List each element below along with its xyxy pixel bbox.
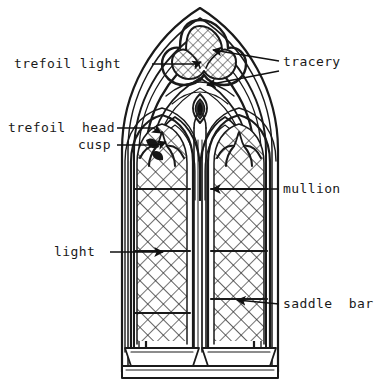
mullion <box>194 112 206 352</box>
gothic-window-diagram: trefoil light tracery trefoil head cusp … <box>0 0 380 385</box>
label-trefoil-head: trefoil head <box>8 120 115 135</box>
window-sill <box>122 366 278 378</box>
label-mullion: mullion <box>283 181 341 196</box>
diagram-canvas: trefoil light tracery trefoil head cusp … <box>0 0 380 385</box>
label-trefoil-light: trefoil light <box>14 56 121 71</box>
window-drawing <box>122 8 278 378</box>
label-texts: trefoil light tracery trefoil head cusp … <box>8 54 374 311</box>
left-lancet-light <box>125 108 199 366</box>
right-lancet-light <box>202 108 276 366</box>
label-cusp: cusp <box>78 137 111 152</box>
trefoil-light <box>162 20 246 85</box>
label-light: light <box>54 244 95 259</box>
label-tracery: tracery <box>283 54 341 69</box>
label-saddle-bar: saddle bar <box>283 296 374 311</box>
